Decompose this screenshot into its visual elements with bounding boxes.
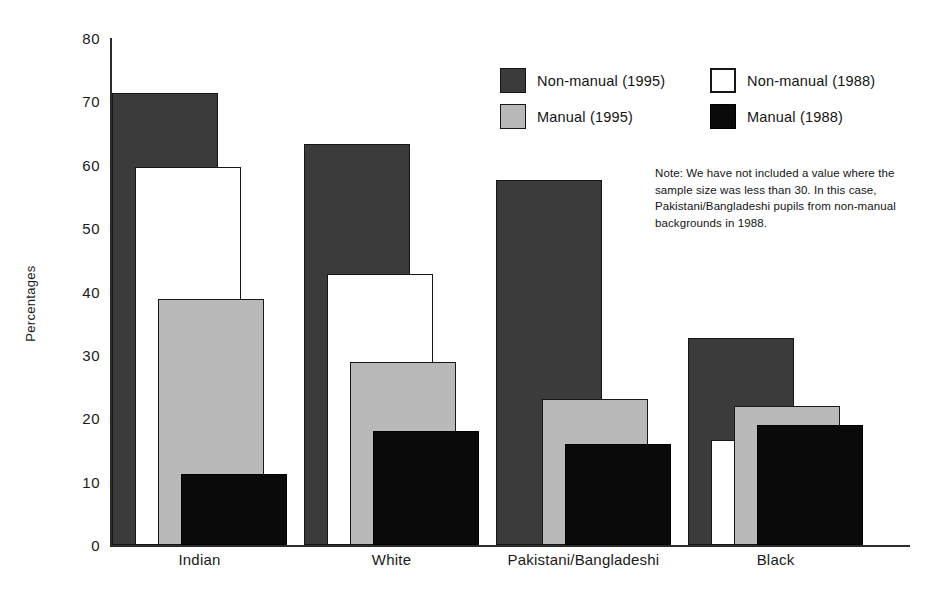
legend-swatch-non-manual-1988-icon (710, 68, 736, 93)
legend-item-non-manual-1988[interactable]: Non-manual (1988) (710, 68, 875, 93)
bar-m88-black (757, 425, 863, 545)
legend-item-manual-1995[interactable]: Manual (1995) (500, 104, 710, 129)
legend-label: Manual (1988) (747, 109, 843, 125)
y-axis-tick-label: 50 (54, 221, 100, 236)
legend-swatch-manual-1988-icon (710, 104, 736, 129)
bar-chart: Percentages 80706050403020100 IndianWhit… (0, 0, 926, 597)
x-axis-tick-label: Black (666, 551, 886, 568)
y-axis-title: Percentages (23, 244, 38, 364)
x-axis-line (110, 545, 910, 547)
x-axis-tick-label: White (282, 551, 502, 568)
legend-label: Non-manual (1995) (537, 73, 665, 89)
bar-m88-indian (181, 474, 287, 545)
legend-swatch-non-manual-1995-icon (500, 68, 526, 93)
y-axis-tick-labels: 80706050403020100 (48, 0, 100, 597)
x-axis-tick-label: Pakistani/Bangladeshi (474, 551, 694, 568)
y-axis-tick-label: 40 (54, 285, 100, 300)
bar-m88-white (373, 431, 479, 545)
legend-row: Non-manual (1995) Non-manual (1988) (500, 68, 920, 93)
bar-group (304, 38, 479, 545)
chart-note: Note: We have not included a value where… (655, 165, 917, 231)
y-axis-tick-label: 60 (54, 158, 100, 173)
y-axis-tick-label: 10 (54, 475, 100, 490)
y-axis-tick-label: 20 (54, 411, 100, 426)
legend-item-non-manual-1995[interactable]: Non-manual (1995) (500, 68, 710, 93)
legend-swatch-manual-1995-icon (500, 104, 526, 129)
legend: Non-manual (1995) Non-manual (1988) Manu… (500, 68, 920, 140)
y-axis-tick-label: 30 (54, 348, 100, 363)
x-axis-tick-label: Indian (90, 551, 310, 568)
legend-label: Non-manual (1988) (747, 73, 875, 89)
bar-m88-pakistani-bangladeshi (565, 444, 671, 545)
legend-item-manual-1988[interactable]: Manual (1988) (710, 104, 843, 129)
y-axis-tick-label: 80 (54, 31, 100, 46)
bar-group (112, 38, 287, 545)
y-axis-tick-label: 70 (54, 94, 100, 109)
legend-row: Manual (1995) Manual (1988) (500, 104, 920, 129)
legend-label: Manual (1995) (537, 109, 633, 125)
